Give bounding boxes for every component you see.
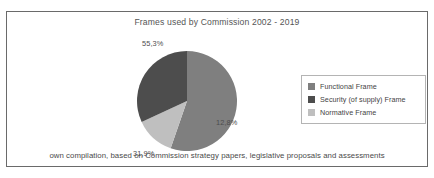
legend-label-functional: Functional Frame	[320, 82, 377, 91]
legend-swatch-icon-security	[308, 96, 315, 103]
chart-title: Frames used by Commission 2002 - 2019	[7, 17, 427, 27]
legend-swatch-icon-functional	[308, 83, 315, 90]
legend-label-security: Security (of supply) Frame	[320, 95, 406, 104]
pie-label-functional: 55,3%	[142, 39, 163, 48]
legend-label-normative: Normative Frame	[320, 108, 376, 117]
chart-legend: Functional Frame Security (of supply) Fr…	[301, 75, 426, 124]
chart-page: Frames used by Commission 2002 - 2019 55…	[0, 0, 434, 178]
pie-label-normative: 12,8%	[216, 118, 237, 127]
legend-item-functional[interactable]: Functional Frame	[308, 80, 420, 93]
legend-item-normative[interactable]: Normative Frame	[308, 106, 420, 119]
legend-swatch-icon-normative	[308, 109, 315, 116]
chart-caption: own compilation, based on Commission str…	[7, 151, 427, 160]
pie-svg	[136, 50, 238, 152]
chart-frame: Frames used by Commission 2002 - 2019 55…	[6, 11, 428, 167]
legend-item-security[interactable]: Security (of supply) Frame	[308, 93, 420, 106]
pie-chart	[136, 50, 238, 152]
